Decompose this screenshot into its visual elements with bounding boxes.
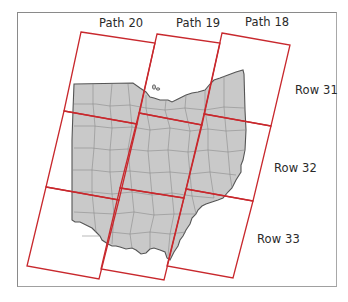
row-32-label: Row 32	[274, 161, 317, 175]
path-19-label: Path 19	[176, 16, 220, 30]
path-20-label: Path 20	[99, 16, 143, 30]
ohio-map	[0, 0, 348, 302]
row-31-label: Row 31	[295, 83, 338, 97]
path-18-label: Path 18	[245, 15, 289, 29]
lake-erie-islands	[152, 85, 159, 90]
ohio-state-shape	[72, 70, 246, 260]
row-33-label: Row 33	[257, 232, 300, 246]
